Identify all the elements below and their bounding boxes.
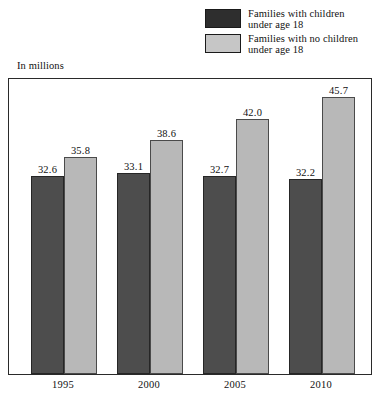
bar-group: 32.742.0	[203, 79, 269, 374]
chart-plot-frame: 32.635.833.138.632.742.032.245.7	[8, 78, 372, 375]
y-axis-unit-note: In millions	[17, 60, 64, 71]
bar: 35.8	[64, 157, 97, 374]
legend-label: Families with children under age 18	[248, 8, 345, 31]
bar: 38.6	[150, 140, 183, 374]
x-axis-label-2010: 2010	[288, 379, 354, 390]
bar: 32.7	[203, 176, 236, 374]
x-axis-label-2000: 2000	[116, 379, 182, 390]
bar-group: 32.245.7	[289, 79, 355, 374]
bar-value-label: 32.6	[38, 164, 57, 175]
bar-value-label: 33.1	[124, 161, 143, 172]
x-axis-label-1995: 1995	[30, 379, 96, 390]
bar-value-label: 32.7	[210, 164, 229, 175]
legend-item-families-with-children: Families with children under age 18	[205, 8, 383, 31]
bar: 32.2	[289, 179, 322, 374]
bar-value-label: 32.2	[296, 167, 315, 178]
legend-label: Families with no children under age 18	[248, 33, 358, 56]
bar-value-label: 38.6	[157, 128, 176, 139]
bar-group: 33.138.6	[117, 79, 183, 374]
bar: 32.6	[31, 176, 64, 374]
bar-group: 32.635.8	[31, 79, 97, 374]
bar: 42.0	[236, 119, 269, 374]
legend-swatch-light-icon	[205, 34, 241, 53]
bar-value-label: 35.8	[71, 145, 90, 156]
x-axis-label-2005: 2005	[202, 379, 268, 390]
bar-value-label: 42.0	[243, 107, 262, 118]
legend-swatch-dark-icon	[205, 9, 241, 28]
bar-value-label: 45.7	[329, 85, 348, 96]
bar: 33.1	[117, 173, 150, 374]
chart-legend: Families with children under age 18 Fami…	[205, 8, 383, 58]
bar: 45.7	[322, 97, 355, 374]
legend-item-families-with-no-children: Families with no children under age 18	[205, 33, 383, 56]
bars-container: 32.635.833.138.632.742.032.245.7	[9, 79, 371, 374]
